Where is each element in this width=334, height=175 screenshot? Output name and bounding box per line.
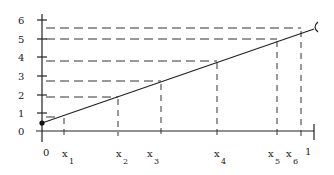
svg-text:1: 1 — [18, 108, 24, 119]
svg-text:5: 5 — [18, 34, 24, 45]
diagram-canvas: 0 1 2 3 4 5 6 0 x 1 x 2 x 3 x 4 x 5 x 6 … — [0, 0, 334, 175]
svg-text:x: x — [147, 148, 153, 159]
open-endpoint-bracket — [315, 22, 318, 32]
svg-text:4: 4 — [221, 157, 226, 166]
svg-text:5: 5 — [275, 157, 280, 166]
start-point-dot — [39, 120, 44, 125]
linear-function-line — [42, 29, 314, 123]
svg-text:x: x — [286, 148, 292, 159]
svg-text:0: 0 — [43, 147, 49, 158]
dashed-horizontals — [46, 28, 301, 117]
svg-text:3: 3 — [18, 71, 24, 82]
svg-text:4: 4 — [18, 52, 24, 63]
svg-text:0: 0 — [18, 126, 24, 137]
x-labels: 0 x 1 x 2 x 3 x 4 x 5 x 6 1 — [43, 146, 311, 166]
svg-text:1: 1 — [305, 146, 311, 157]
y-tick-labels: 0 1 2 3 4 5 6 — [18, 15, 24, 137]
svg-text:x: x — [116, 148, 122, 159]
svg-text:2: 2 — [123, 157, 128, 166]
dashed-verticals — [64, 31, 301, 136]
svg-text:6: 6 — [293, 157, 298, 166]
svg-text:1: 1 — [69, 157, 74, 166]
svg-text:2: 2 — [18, 90, 24, 101]
svg-text:x: x — [62, 148, 68, 159]
svg-text:3: 3 — [154, 157, 159, 166]
svg-text:x: x — [214, 148, 220, 159]
svg-text:6: 6 — [18, 15, 24, 26]
svg-text:x: x — [268, 148, 274, 159]
axes — [36, 14, 314, 142]
